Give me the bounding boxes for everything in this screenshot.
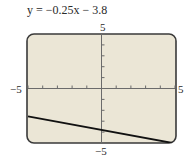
- y-min-label: −5: [95, 145, 107, 157]
- x-max-label: 5: [178, 83, 184, 95]
- graph-window: −5 5 5 −5: [0, 0, 195, 163]
- y-max-label: 5: [100, 21, 106, 33]
- x-min-label: −5: [10, 83, 22, 95]
